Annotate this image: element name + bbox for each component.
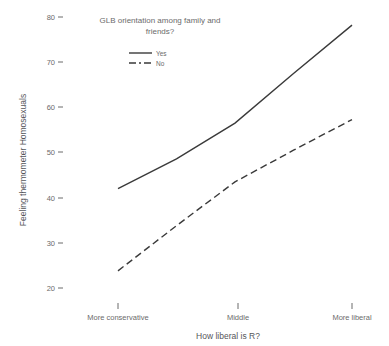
legend: GLB orientation among family and friends… [100,16,221,67]
legend-label-yes: Yes [156,50,167,57]
x-tick-label-more-liberal: More liberal [332,313,372,322]
series-line-yes [118,25,352,189]
y-axis-ticks [58,17,63,288]
y-tick-label-40: 40 [47,194,55,203]
x-tick-label-middle: Middle [227,313,249,322]
y-tick-label-20: 20 [47,284,55,293]
series-line-no [118,120,352,271]
legend-item-no[interactable]: No [129,60,165,67]
legend-title-line2: friends? [146,27,175,36]
y-tick-label-50: 50 [47,148,55,157]
y-tick-label-70: 70 [47,58,55,67]
x-axis-title: How liberal is R? [196,331,260,341]
chart-container: 80 70 60 50 40 30 20 Feeling thermometer… [0,0,389,346]
x-tick-label-more-conservative: More conservative [87,313,148,322]
legend-label-no: No [156,60,165,67]
legend-title-line1: GLB orientation among family and [100,16,221,25]
line-chart: 80 70 60 50 40 30 20 Feeling thermometer… [0,0,389,346]
y-tick-label-80: 80 [47,13,55,22]
y-axis-title: Feeling thermometer Homosexuals [18,94,28,226]
y-tick-label-60: 60 [47,103,55,112]
legend-item-yes[interactable]: Yes [129,50,167,57]
x-axis-ticks [118,303,352,309]
y-tick-label-30: 30 [47,239,55,248]
